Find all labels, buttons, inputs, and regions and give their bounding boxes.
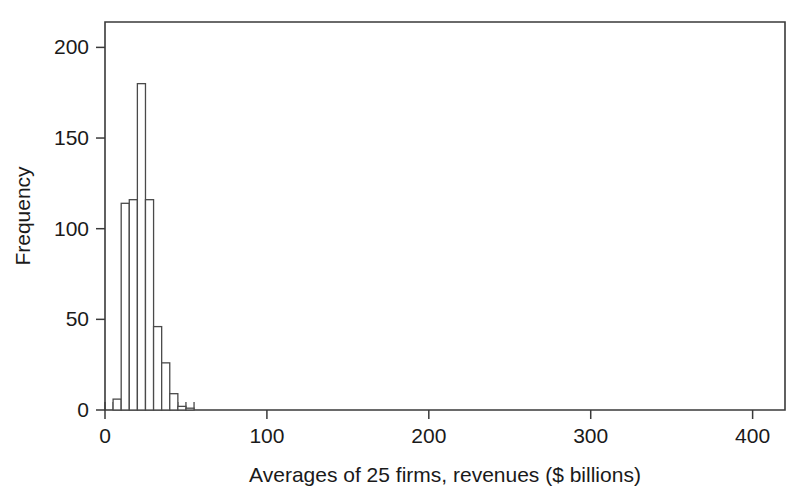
x-tick-label: 300 — [573, 424, 608, 447]
y-tick-label: 50 — [66, 307, 89, 330]
histogram-bar — [145, 200, 153, 410]
histogram-bar — [129, 200, 137, 410]
y-tick-label: 100 — [54, 217, 89, 240]
histogram-bar — [121, 203, 129, 410]
y-tick-label: 200 — [54, 35, 89, 58]
histogram-bar — [162, 363, 170, 410]
histogram-bar — [178, 406, 186, 410]
x-axis-title: Averages of 25 firms, revenues ($ billio… — [249, 463, 641, 486]
histogram-bar — [186, 408, 194, 410]
histogram-bar — [170, 394, 178, 410]
x-tick-label: 100 — [249, 424, 284, 447]
y-tick-label: 150 — [54, 126, 89, 149]
x-tick-label: 0 — [99, 424, 111, 447]
histogram-bar — [154, 327, 162, 410]
x-tick-label: 400 — [735, 424, 770, 447]
histogram-chart-canvas: 050100150200 0100200300400 Averages of 2… — [0, 0, 806, 497]
histogram-bar — [113, 399, 121, 410]
x-tick-label: 200 — [411, 424, 446, 447]
histogram-bar — [137, 84, 145, 410]
y-tick-label: 0 — [77, 398, 89, 421]
y-axis-title: Frequency — [11, 166, 34, 266]
histogram-figure: 050100150200 0100200300400 Averages of 2… — [0, 0, 806, 497]
